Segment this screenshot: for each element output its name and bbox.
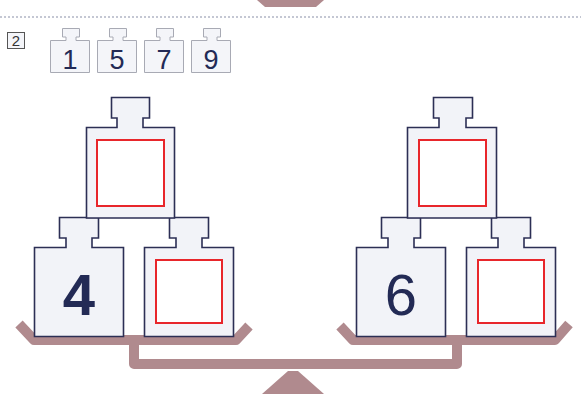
- left-weight-answer: [145, 218, 234, 337]
- left-top-weight-answer: [87, 98, 175, 219]
- choice-weight[interactable]: 5: [98, 29, 137, 76]
- choice-weights: 1 5 7 9: [51, 29, 231, 76]
- answer-box[interactable]: [97, 140, 164, 206]
- choice-weight[interactable]: 7: [145, 29, 184, 76]
- answer-box[interactable]: [156, 260, 222, 323]
- right-top-weight-answer: [408, 98, 497, 219]
- answer-box[interactable]: [419, 140, 486, 206]
- right-weight-answer: [467, 218, 556, 337]
- left-weight-4: 4: [35, 218, 124, 337]
- balance-puzzle: 2 1 5 7 9 4: [0, 0, 581, 394]
- svg-text:9: 9: [203, 45, 218, 75]
- answer-box[interactable]: [478, 260, 544, 323]
- choice-weight[interactable]: 1: [51, 29, 90, 76]
- svg-text:5: 5: [109, 45, 124, 75]
- previous-fulcrum: [257, 0, 324, 7]
- svg-text:1: 1: [62, 45, 77, 75]
- right-weight-6: 6: [357, 218, 446, 337]
- svg-text:4: 4: [63, 262, 95, 327]
- fulcrum: [262, 371, 324, 394]
- problem-number: 2: [8, 32, 25, 49]
- svg-text:2: 2: [12, 32, 20, 49]
- svg-text:6: 6: [385, 262, 417, 327]
- svg-text:7: 7: [156, 45, 171, 75]
- choice-weight[interactable]: 9: [192, 29, 231, 76]
